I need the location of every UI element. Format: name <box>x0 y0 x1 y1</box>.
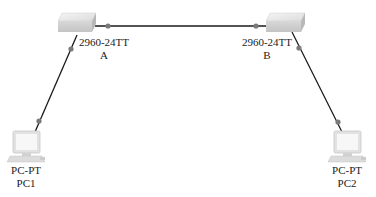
pc2-icon[interactable] <box>328 131 366 162</box>
port-dot-a-pc1-1 <box>68 46 73 51</box>
port-dot-a-b-2 <box>253 23 258 28</box>
pc1-icon[interactable] <box>7 131 45 162</box>
port-dot-b-pc2-1 <box>296 45 301 50</box>
switch-a-label: 2960-24TT A <box>79 36 129 62</box>
port-dot-a-b-1 <box>105 23 110 28</box>
switch-b-name: B <box>242 49 292 62</box>
port-dot-b-pc2-2 <box>335 119 340 124</box>
pc1-model: PC-PT <box>11 164 41 177</box>
pc1-label: PC-PT PC1 <box>11 164 41 190</box>
switch-b-model: 2960-24TT <box>242 36 292 49</box>
switch-a-name: A <box>79 49 129 62</box>
link-a-pc1[interactable] <box>35 35 77 132</box>
link-b-pc2[interactable] <box>292 32 342 132</box>
switch-a-icon[interactable] <box>58 13 96 32</box>
pc2-model: PC-PT <box>332 164 362 177</box>
pc2-label: PC-PT PC2 <box>332 164 362 190</box>
pc2-name: PC2 <box>332 177 362 190</box>
switch-a-model: 2960-24TT <box>79 36 129 49</box>
pc1-name: PC1 <box>11 177 41 190</box>
topology-canvas <box>0 0 376 197</box>
link-a-b[interactable] <box>95 23 266 28</box>
port-dot-a-pc1-2 <box>36 118 41 123</box>
switch-b-icon[interactable] <box>266 13 305 32</box>
switch-b-label: 2960-24TT B <box>242 36 292 62</box>
